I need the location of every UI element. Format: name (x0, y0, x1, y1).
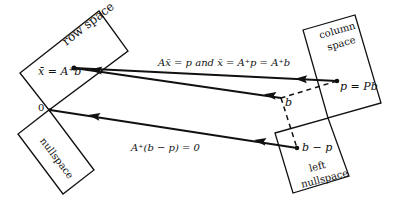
point-origin (48, 108, 52, 112)
point-b-minus-p (295, 146, 300, 151)
xbar-label: x̄ = A⁺b (38, 66, 81, 77)
origin-label: 0 (38, 103, 44, 113)
point-p (335, 79, 340, 84)
equation-top: Ax̄ = p and x̄ = A⁺p = A⁺b (158, 58, 290, 68)
b-label: b (285, 97, 292, 108)
p-label: p = Pb (340, 81, 378, 92)
equation-bottom: A⁺(b − p) = 0 (131, 143, 200, 153)
b-minus-p-label: b − p (302, 142, 332, 153)
